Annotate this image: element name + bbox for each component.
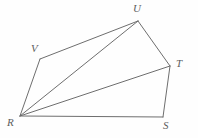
vertex-label-s: S [163,120,169,131]
edge-UT [138,21,170,66]
edges-group [20,21,170,117]
vertex-label-v: V [31,43,38,54]
edge-RT [20,66,170,116]
edge-RU [20,21,138,116]
figure-canvas [0,0,198,138]
vertex-label-t: T [176,58,182,69]
edge-SR [20,116,163,117]
geometry-figure: RVUTS [0,0,198,138]
vertex-label-u: U [133,3,141,14]
edge-VU [40,21,138,59]
vertex-label-r: R [7,117,14,128]
edge-TS [163,66,170,117]
